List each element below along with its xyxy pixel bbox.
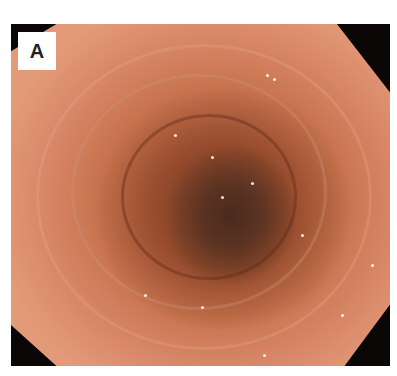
mucosal-fold — [36, 44, 372, 350]
mucosa-view — [11, 24, 390, 366]
light-reflection — [221, 196, 224, 199]
light-reflection — [201, 306, 204, 309]
light-reflection — [301, 234, 304, 237]
light-reflection — [371, 264, 374, 267]
light-reflection — [341, 314, 344, 317]
light-reflection — [263, 354, 266, 357]
panel-label: A — [18, 32, 56, 70]
light-reflection — [251, 182, 254, 185]
light-reflection — [266, 74, 269, 77]
light-reflection — [211, 156, 214, 159]
endoscopy-image — [11, 24, 390, 366]
light-reflection — [273, 78, 276, 81]
light-reflection — [144, 294, 147, 297]
light-reflection — [174, 134, 177, 137]
